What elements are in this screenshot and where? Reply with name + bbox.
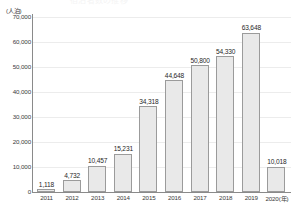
bar-2020[interactable] [267,167,285,192]
y-tick-label: 10,000 [1,163,31,170]
bar-slot: 50,800 [188,17,213,192]
bar-2019[interactable] [242,33,260,192]
bar-2012[interactable] [63,180,81,192]
bar-chart: 宿泊者数の推移 (人泊) 70,00060,00050,00040,00030,… [0,0,299,210]
x-axis-line [33,192,291,193]
chart-title-clipped: 宿泊者数の推移 [0,0,299,6]
y-axis-line [32,14,33,193]
bar-slot: 54,330 [213,17,238,192]
y-axis-tick-labels: 70,00060,00050,00040,00030,00020,00010,0… [0,0,31,210]
plot-area: 1,1184,73210,45715,23134,31844,64850,800… [33,17,291,192]
bar-2017[interactable] [191,65,209,192]
x-tick-label-2020: 2020(年) [260,194,294,203]
bar-2013[interactable] [88,166,106,192]
bar-value-label: 10,018 [256,158,297,165]
bar-2015[interactable] [139,106,157,192]
y-tick-label: 60,000 [1,38,31,45]
bar-slot: 4,732 [60,17,85,192]
chart-title-text: 宿泊者数の推移 [70,0,128,5]
bar-slot: 1,118 [34,17,59,192]
bar-slot: 10,018 [264,17,289,192]
bar-2018[interactable] [216,56,234,192]
y-tick-label: 40,000 [1,88,31,95]
bar-2016[interactable] [165,80,183,192]
bar-slot: 34,318 [136,17,161,192]
bar-slot: 44,648 [162,17,187,192]
x-axis-tick-labels: 2011201220132014201520162017201820192020… [33,194,291,208]
y-tick-label: 20,000 [1,138,31,145]
y-tick-label: 30,000 [1,113,31,120]
bar-slot: 63,648 [239,17,264,192]
bar-2014[interactable] [114,154,132,192]
y-tick-label: 70,000 [1,13,31,20]
y-tick-label: 0 [1,188,31,195]
bar-slot: 10,457 [85,17,110,192]
y-tick-label: 50,000 [1,63,31,70]
